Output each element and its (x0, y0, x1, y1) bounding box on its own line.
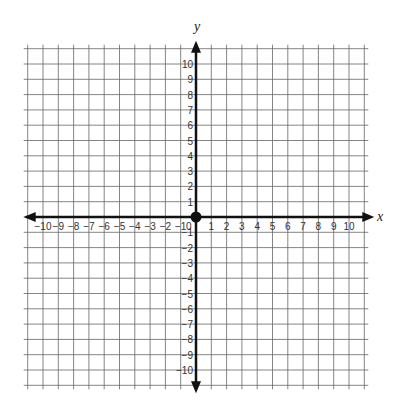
x-tick-label: 3 (239, 221, 245, 232)
x-tick-label: −8 (68, 221, 80, 232)
x-tick-label: 2 (224, 221, 230, 232)
y-tick-label: −9 (182, 350, 194, 361)
y-tick-label: −3 (182, 258, 194, 269)
x-tick-label: 7 (300, 221, 306, 232)
origin-label: 0 (186, 221, 192, 232)
x-tick-label: 8 (316, 221, 322, 232)
y-axis-label: y (192, 19, 201, 34)
x-tick-label: −7 (83, 221, 95, 232)
x-tick-label: −5 (114, 221, 126, 232)
y-tick-label: −8 (182, 334, 194, 345)
x-tick-label: 6 (285, 221, 291, 232)
y-tick-label: 3 (187, 166, 193, 177)
y-tick-label: 4 (187, 151, 193, 162)
y-tick-label: −2 (182, 243, 194, 254)
x-tick-label: 4 (254, 221, 260, 232)
y-axis-arrow-up-icon (191, 41, 201, 53)
y-tick-label: 8 (187, 90, 193, 101)
x-tick-label: 5 (270, 221, 276, 232)
y-tick-label: 7 (187, 105, 193, 116)
y-tick-label: 9 (187, 74, 193, 85)
x-tick-label: 1 (209, 221, 215, 232)
y-tick-label: 5 (187, 136, 193, 147)
y-tick-label: 10 (182, 59, 194, 70)
y-tick-label: −5 (182, 289, 194, 300)
y-tick-label: 2 (187, 181, 193, 192)
y-tick-label: −7 (182, 319, 194, 330)
y-axis-arrow-down-icon (191, 381, 201, 393)
y-tick-label: −6 (182, 304, 194, 315)
x-tick-label: 10 (343, 221, 355, 232)
y-tick-label: −10 (176, 365, 193, 376)
origin-dot (191, 212, 202, 223)
x-tick-label: −6 (98, 221, 110, 232)
y-tick-label: −4 (182, 273, 194, 284)
y-tick-label: 6 (187, 120, 193, 131)
x-axis-label: x (376, 209, 384, 224)
x-tick-label: −10 (35, 221, 52, 232)
x-tick-label: −3 (144, 221, 156, 232)
x-tick-label: −2 (160, 221, 172, 232)
x-tick-label: −9 (53, 221, 65, 232)
coordinate-plane: −10−9−8−7−6−5−4−3−2−112345678910−10−9−8−… (0, 0, 404, 415)
y-tick-label: 1 (187, 197, 193, 208)
x-tick-label: 9 (331, 221, 337, 232)
x-axis-arrow-right-icon (362, 212, 374, 222)
x-tick-label: −4 (129, 221, 141, 232)
